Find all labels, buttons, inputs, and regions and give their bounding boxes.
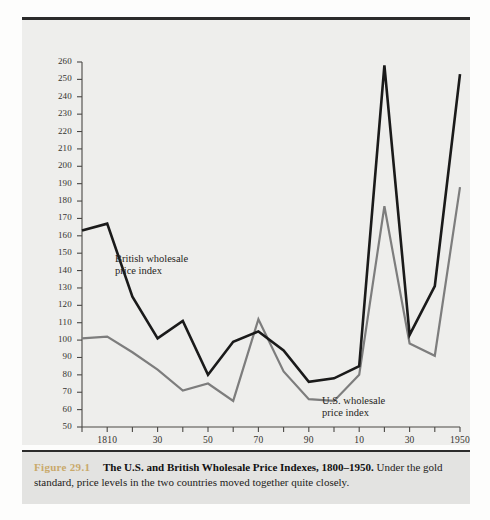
chart-panel: 5060708090100110120130140150160170180190…	[22, 20, 470, 445]
figure-caption-band: Figure 29.1 The U.S. and British Wholesa…	[22, 452, 470, 504]
x-tick-label: 1810	[87, 435, 127, 445]
y-tick-label: 90	[46, 351, 72, 361]
y-tick-label: 180	[46, 195, 72, 205]
x-tick-label: 1950	[440, 435, 480, 445]
y-tick-label: 70	[46, 386, 72, 396]
y-tick-label: 160	[46, 230, 72, 240]
series-label-british: British wholesale price index	[115, 253, 188, 277]
y-tick-label: 120	[46, 299, 72, 309]
y-tick-label: 230	[46, 108, 72, 118]
figure-caption: Figure 29.1 The U.S. and British Wholesa…	[34, 460, 458, 490]
figure-title: The U.S. and British Wholesale Price Ind…	[103, 461, 374, 473]
y-tick-label: 200	[46, 160, 72, 170]
y-tick-label: 60	[46, 404, 72, 414]
y-tick-label: 260	[46, 56, 72, 66]
y-tick-label: 240	[46, 91, 72, 101]
x-tick-label: 90	[289, 435, 329, 445]
line-chart-svg	[22, 20, 470, 445]
y-tick-label: 140	[46, 265, 72, 275]
y-tick-label: 220	[46, 126, 72, 136]
figure-page: 5060708090100110120130140150160170180190…	[0, 0, 490, 520]
y-tick-label: 250	[46, 73, 72, 83]
y-tick-label: 170	[46, 212, 72, 222]
x-tick-label: 50	[188, 435, 228, 445]
x-tick-label: 30	[390, 435, 430, 445]
y-tick-label: 110	[46, 317, 72, 327]
y-tick-label: 130	[46, 282, 72, 292]
y-tick-label: 150	[46, 247, 72, 257]
x-tick-label: 30	[138, 435, 178, 445]
y-tick-label: 80	[46, 369, 72, 379]
y-tick-label: 50	[46, 421, 72, 431]
x-tick-label: 70	[238, 435, 278, 445]
figure-number: Figure 29.1	[34, 461, 90, 473]
y-tick-label: 100	[46, 334, 72, 344]
y-tick-label: 210	[46, 143, 72, 153]
series-label-us: U.S. wholesale price index	[322, 395, 385, 419]
y-tick-label: 190	[46, 178, 72, 188]
chart-plot-area: 5060708090100110120130140150160170180190…	[22, 20, 470, 445]
x-tick-label: 10	[339, 435, 379, 445]
